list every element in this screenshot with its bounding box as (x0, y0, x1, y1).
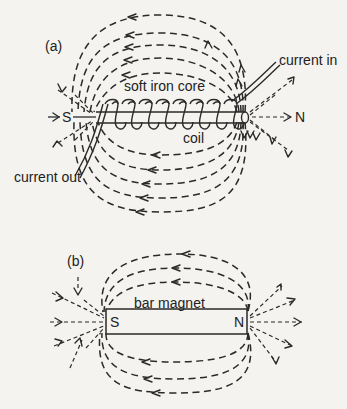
coil-label: coil (183, 131, 204, 145)
electromagnet-figure (48, 14, 294, 215)
lower-field-arrows (136, 131, 276, 215)
bar-magnet-body (106, 309, 247, 334)
bar-magnet-south-pole: S (110, 315, 119, 329)
figure-b-label: (b) (67, 254, 84, 268)
s-axis-line (48, 113, 96, 121)
bar-magnet-figure (50, 251, 302, 396)
electromagnet-south-pole: S (62, 110, 71, 124)
current-out-label: current out (14, 170, 81, 184)
n-axis-line (252, 113, 293, 121)
soft-iron-core (96, 112, 249, 123)
bar-s-axis-line (50, 318, 104, 326)
bar-magnet-label: bar magnet (134, 296, 205, 310)
upper-field-arrows (122, 14, 245, 86)
lower-field-lines (74, 122, 246, 212)
figure-a-label: (a) (45, 39, 62, 53)
bar-n-axis-line (250, 318, 302, 326)
upper-field-lines (72, 15, 246, 112)
soft-iron-core-label: soft iron core (124, 79, 205, 93)
current-in-label: current in (279, 53, 337, 67)
bar-lower-field-lines (99, 333, 250, 393)
bar-n-end-flux (250, 284, 295, 364)
electromagnet-north-pole: N (295, 110, 305, 124)
bar-magnet-north-pole: N (234, 315, 244, 329)
